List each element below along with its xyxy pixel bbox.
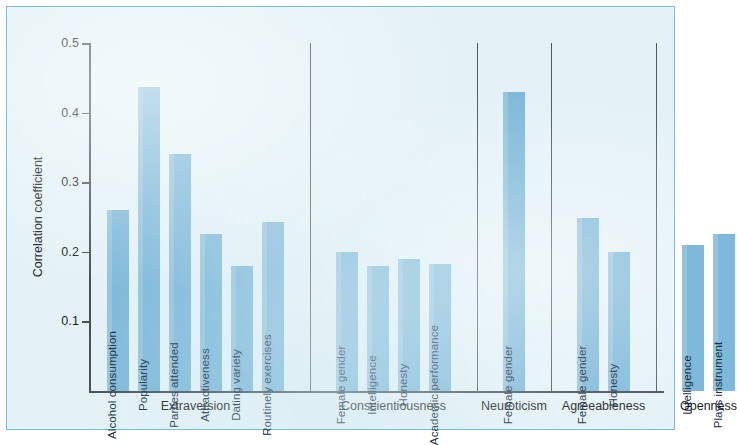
bar: Attractiveness — [200, 234, 222, 391]
bar: Dating variety — [231, 266, 253, 391]
y-axis-line — [89, 43, 91, 391]
group-separator — [551, 43, 552, 391]
bar: Academic performance — [429, 264, 451, 391]
bar-label: Popularity — [137, 359, 149, 411]
bar: Plays instrument — [713, 234, 735, 391]
bar: Parties attended — [169, 154, 191, 391]
group-separator — [310, 43, 311, 391]
y-axis-tick-label: 0.1 — [61, 314, 79, 328]
y-axis-title: Correlation coefficient — [29, 43, 47, 391]
bar: Alcohol consumption — [107, 210, 129, 391]
bar-label: Plays instrument — [712, 342, 724, 429]
y-axis-tick-mark — [82, 182, 89, 184]
bar: Intelligence — [367, 266, 389, 391]
y-axis-tick-label: 0.5 — [61, 36, 79, 50]
y-axis-tick-label: 0.3 — [61, 175, 79, 189]
bar-label: Alcohol consumption — [106, 331, 118, 439]
group-label: Agreeableness — [562, 399, 645, 413]
bar: Female gender — [503, 92, 525, 391]
bar-label: Parties attended — [168, 342, 180, 427]
bar: Routinely exercises — [262, 222, 284, 391]
group-label: Openness — [680, 399, 737, 413]
group-separator — [477, 43, 478, 391]
y-axis-tick-mark — [82, 113, 89, 115]
bar: Female gender — [577, 218, 599, 391]
bar-highlight — [138, 87, 143, 391]
chart-panel: Correlation coefficient 0.10.20.30.40.5 … — [6, 6, 675, 430]
bar-label: Academic performance — [428, 325, 440, 445]
group-separator — [656, 43, 657, 391]
y-axis-tick-label: 0.4 — [61, 106, 79, 120]
bar: Female gender — [336, 252, 358, 391]
group-label: Neuroticism — [481, 399, 547, 413]
bar: Popularity — [138, 87, 160, 391]
y-axis-tick-mark — [82, 252, 89, 254]
bar: Honesty — [398, 259, 420, 391]
bar-label: Routinely exercises — [261, 334, 273, 436]
y-axis-title-text: Correlation coefficient — [31, 157, 45, 278]
bar: Honesty — [608, 252, 630, 391]
y-axis-tick-mark — [82, 43, 89, 45]
y-axis-tick-label: 0.2 — [61, 245, 79, 259]
group-label: Conscientiousness — [341, 399, 446, 413]
bar-label: Dating variety — [230, 349, 242, 421]
bar: Intelligence — [682, 245, 704, 391]
y-axis-tick-mark — [82, 321, 89, 323]
plot-area: 0.10.20.30.40.5 Alcohol consumptionPopul… — [89, 43, 664, 391]
group-label: Extraversion — [161, 399, 230, 413]
